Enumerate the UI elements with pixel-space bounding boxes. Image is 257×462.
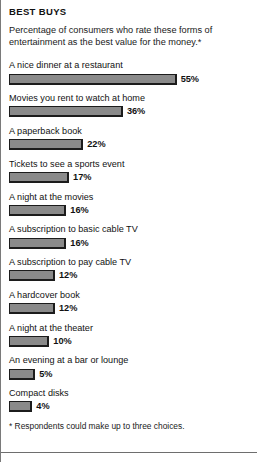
bar-value-label: 36% (127, 106, 145, 117)
bar-line: 12% (9, 270, 249, 281)
chart-footnote: * Respondents could make up to three cho… (9, 421, 249, 431)
bar-value-label: 16% (70, 238, 88, 249)
bar-line: 10% (9, 336, 249, 347)
bar-fill (9, 303, 55, 314)
bar-line: 22% (9, 139, 249, 150)
bar-value-label: 5% (39, 369, 52, 380)
bar-fill (9, 369, 35, 380)
bar-chart: A nice dinner at a restaurant55%Movies y… (9, 60, 249, 412)
bar-category-label: A night at the movies (9, 192, 249, 203)
bar-category-label: An evening at a bar or lounge (9, 355, 249, 366)
infographic-content: BEST BUYS Percentage of consumers who ra… (9, 0, 249, 431)
bar-category-label: A night at the theater (9, 323, 249, 334)
bar-row: A night at the movies16% (9, 192, 249, 216)
bar-value-label: 16% (70, 205, 88, 216)
bar-fill (9, 270, 55, 281)
bar-value-label: 4% (36, 401, 49, 412)
bar-value-label: 10% (53, 336, 71, 347)
bar-fill (9, 336, 49, 347)
bar-line: 16% (9, 205, 249, 216)
bar-value-label: 55% (181, 74, 199, 85)
bar-row: A nice dinner at a restaurant55% (9, 60, 249, 84)
bar-line: 5% (9, 369, 249, 380)
bar-row: A subscription to pay cable TV12% (9, 257, 249, 281)
bar-category-label: A nice dinner at a restaurant (9, 60, 249, 71)
bar-row: Movies you rent to watch at home36% (9, 93, 249, 117)
bar-fill (9, 205, 66, 216)
bottom-divider (1, 452, 257, 453)
bar-row: A paperback book22% (9, 126, 249, 150)
bar-value-label: 12% (59, 270, 77, 281)
bar-category-label: A hardcover book (9, 290, 249, 301)
best-buys-infographic: BEST BUYS Percentage of consumers who ra… (0, 0, 257, 462)
bar-fill (9, 172, 69, 183)
bar-value-label: 17% (73, 172, 91, 183)
bar-line: 16% (9, 238, 249, 249)
bar-fill (9, 238, 66, 249)
bar-category-label: A subscription to pay cable TV (9, 257, 249, 268)
bar-category-label: Movies you rent to watch at home (9, 93, 249, 104)
bar-row: A subscription to basic cable TV16% (9, 224, 249, 248)
bar-row: An evening at a bar or lounge5% (9, 355, 249, 379)
bar-category-label: Tickets to see a sports event (9, 159, 249, 170)
bar-row: A night at the theater10% (9, 323, 249, 347)
bar-row: Tickets to see a sports event17% (9, 159, 249, 183)
bar-category-label: Compact disks (9, 388, 249, 399)
bar-fill (9, 74, 177, 85)
bar-row: A hardcover book12% (9, 290, 249, 314)
page-title: BEST BUYS (9, 6, 249, 17)
bar-category-label: A paperback book (9, 126, 249, 137)
bar-line: 36% (9, 106, 249, 117)
bar-fill (9, 139, 83, 150)
bar-line: 12% (9, 303, 249, 314)
bar-category-label: A subscription to basic cable TV (9, 224, 249, 235)
bar-fill (9, 401, 32, 412)
bar-value-label: 12% (59, 303, 77, 314)
bar-row: Compact disks4% (9, 388, 249, 412)
bar-line: 55% (9, 74, 249, 85)
bar-line: 17% (9, 172, 249, 183)
chart-subtitle: Percentage of consumers who rate these f… (9, 24, 247, 48)
bar-value-label: 22% (87, 139, 105, 150)
bar-line: 4% (9, 401, 249, 412)
bar-fill (9, 106, 123, 117)
